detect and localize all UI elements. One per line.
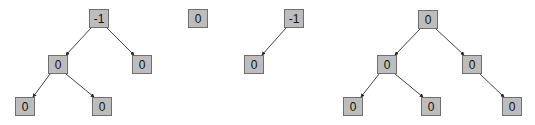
edges-layer: [0, 0, 535, 125]
tree-edge-arrow: [107, 28, 134, 55]
tree-node: 0: [343, 97, 363, 116]
tree-node: 0: [132, 55, 152, 74]
tree-node: 0: [421, 97, 441, 116]
tree-diagram-canvas: -100000-10000000: [0, 0, 535, 125]
tree-edge-arrow: [262, 28, 286, 55]
tree-edge-arrow: [395, 74, 423, 97]
tree-node: 0: [188, 9, 208, 28]
tree-node: 0: [15, 97, 35, 116]
tree-node: 0: [418, 10, 438, 29]
tree-edge-arrow: [66, 28, 91, 55]
tree-edge-arrow: [480, 74, 504, 97]
tree-node: 0: [48, 55, 68, 74]
tree-node: 0: [377, 55, 397, 74]
tree-node: 0: [244, 55, 264, 74]
tree-edge-arrow: [436, 29, 464, 55]
tree-edge-arrow: [395, 29, 420, 55]
tree-node: -1: [284, 9, 304, 28]
tree-node: -1: [89, 9, 109, 28]
tree-node: 0: [92, 97, 112, 116]
tree-edge-arrow: [66, 74, 94, 97]
tree-node: 0: [462, 55, 482, 74]
tree-edge-arrow: [361, 74, 379, 97]
tree-node: 0: [502, 97, 522, 116]
tree-edge-arrow: [33, 74, 50, 97]
